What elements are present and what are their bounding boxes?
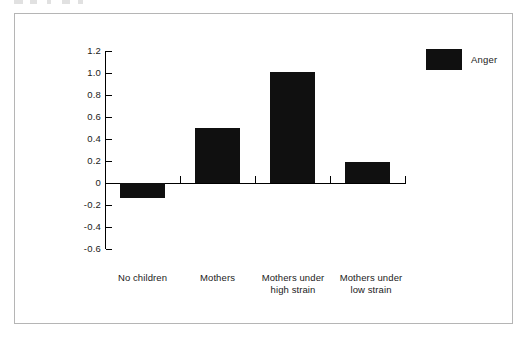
category-label-line: high strain: [253, 284, 333, 296]
caption-fragment: [14, 0, 23, 4]
y-axis-tick-label: 0.8: [67, 90, 101, 100]
x-axis-category-label-mothers: Mothers: [180, 272, 255, 284]
caption-fragment: [78, 0, 83, 4]
y-axis-tick: [106, 205, 112, 206]
bar-chart-plot-area: 1.2 1.0 0.8 0.6 0.4 0.2 0 -0.2 -0.4 -0.6: [15, 14, 514, 325]
y-axis-tick-label: 0.4: [67, 134, 101, 144]
x-axis-tick: [330, 176, 331, 183]
bar-mothers-under-low-strain[interactable]: [345, 162, 390, 183]
category-label-line: Mothers under: [331, 272, 411, 284]
y-axis-tick-label: 1.2: [67, 46, 101, 56]
y-axis-tick-label: -0.2: [67, 200, 101, 210]
x-axis-tick: [180, 176, 181, 183]
category-label-line: low strain: [331, 284, 411, 296]
x-axis-category-label-mothers-low-strain: Mothers under low strain: [331, 272, 411, 296]
category-label-line: Mothers: [180, 272, 255, 284]
y-axis-tick: [106, 95, 112, 96]
y-axis-tick-label: 0.6: [67, 112, 101, 122]
x-axis-tick: [405, 176, 406, 183]
y-axis-tick-label: -0.6: [67, 244, 101, 254]
category-label-line: No children: [105, 272, 180, 284]
y-axis-tick-label: -0.4: [67, 222, 101, 232]
y-axis-tick: [106, 249, 112, 250]
caption-fragment-strip: [0, 0, 526, 8]
y-axis-tick: [106, 117, 112, 118]
y-axis-tick-label: 0: [67, 178, 101, 188]
y-axis-tick: [106, 139, 112, 140]
bar-mothers[interactable]: [195, 128, 240, 183]
bar-mothers-under-high-strain[interactable]: [270, 72, 315, 183]
caption-fragment: [62, 0, 70, 4]
y-axis-tick-label: 0.2: [67, 156, 101, 166]
legend-swatch-anger-icon: [426, 49, 462, 70]
figure-frame: 1.2 1.0 0.8 0.6 0.4 0.2 0 -0.2 -0.4 -0.6: [14, 13, 513, 324]
y-axis-tick: [106, 161, 112, 162]
x-axis-category-label-no-children: No children: [105, 272, 180, 284]
y-axis-tick: [106, 227, 112, 228]
legend-label-anger: Anger: [471, 54, 497, 65]
caption-fragment: [30, 0, 37, 4]
y-axis-tick-label: 1.0: [67, 68, 101, 78]
y-axis-line: [105, 51, 106, 249]
x-axis-tick: [255, 176, 256, 183]
x-axis-category-label-mothers-high-strain: Mothers under high strain: [253, 272, 333, 296]
y-axis-tick: [106, 51, 112, 52]
caption-fragment: [47, 0, 51, 4]
category-label-line: Mothers under: [253, 272, 333, 284]
y-axis-tick: [106, 73, 112, 74]
chart-legend: Anger: [426, 49, 497, 70]
bar-no-children[interactable]: [120, 183, 165, 198]
